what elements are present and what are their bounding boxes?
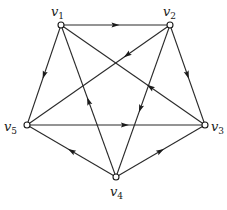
arrowhead-v4-v5	[67, 147, 77, 156]
arrowhead-v4-v1	[85, 96, 93, 105]
edge-v2-v5	[27, 25, 170, 125]
nodes-layer	[24, 22, 208, 180]
node-label-v4: v4	[110, 184, 123, 201]
node-label-v3: v3	[211, 119, 224, 136]
node-v4	[113, 174, 119, 180]
node-label-v2: v2	[163, 4, 176, 21]
arrowhead-v2-v5	[122, 51, 132, 60]
arrowhead-v1-v5	[40, 70, 47, 79]
arrowhead-v2-v4	[137, 104, 145, 113]
node-v2	[167, 22, 173, 28]
node-v5	[24, 122, 30, 128]
edge-v2-v4	[116, 25, 170, 177]
directed-graph-diagram: v1v2v3v4v5	[0, 0, 227, 210]
node-v3	[202, 122, 208, 128]
arrowhead-v4-v3	[156, 147, 166, 156]
node-label-v5: v5	[4, 119, 17, 136]
edge-v3-v1	[61, 25, 205, 125]
node-label-v1: v1	[51, 4, 64, 21]
node-v1	[58, 22, 64, 28]
arrowhead-v2-v3	[184, 70, 192, 79]
edges-layer	[27, 22, 205, 177]
